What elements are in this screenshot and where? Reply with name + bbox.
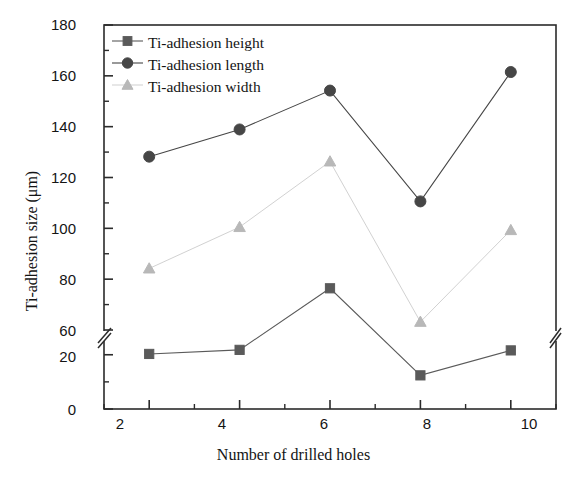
series-line-ti-adhesion-width xyxy=(149,161,511,321)
data-point-circle xyxy=(325,85,336,96)
data-point-triangle xyxy=(505,224,517,234)
data-point-triangle xyxy=(324,156,336,166)
legend-marker-circle xyxy=(122,58,132,68)
series-line-ti-adhesion-height xyxy=(149,288,511,375)
plot-canvas xyxy=(0,0,587,493)
legend-marker-square xyxy=(123,37,132,46)
plot-frame xyxy=(104,25,556,409)
data-point-triangle xyxy=(234,221,246,231)
data-point-square xyxy=(235,345,244,354)
data-point-circle xyxy=(144,151,155,162)
data-point-circle xyxy=(505,67,516,78)
data-point-square xyxy=(506,346,515,355)
legend-marker-triangle xyxy=(122,80,133,90)
data-point-square xyxy=(416,371,425,380)
data-point-circle xyxy=(234,124,245,135)
chart-figure: Ti-adhesion size (μm) Number of drilled … xyxy=(0,0,587,493)
data-point-circle xyxy=(415,196,426,207)
data-point-triangle xyxy=(143,263,155,273)
data-point-square xyxy=(325,284,334,293)
data-point-square xyxy=(145,349,154,358)
